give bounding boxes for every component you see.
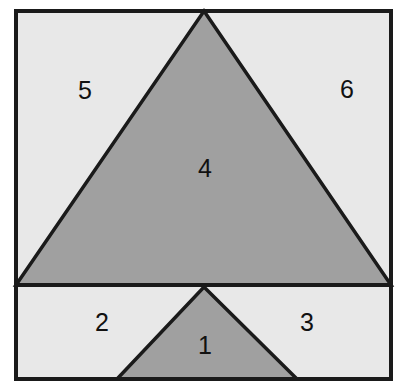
region-label-2: 2 — [95, 308, 109, 336]
geometry-figure: 5 6 4 2 1 3 — [0, 0, 401, 388]
region-label-4: 4 — [198, 154, 212, 182]
region-label-3: 3 — [300, 308, 314, 336]
diagram-root: 5 6 4 2 1 3 — [0, 0, 401, 388]
region-label-5: 5 — [78, 76, 92, 104]
region-label-1: 1 — [198, 331, 212, 359]
region-label-6: 6 — [340, 75, 354, 103]
